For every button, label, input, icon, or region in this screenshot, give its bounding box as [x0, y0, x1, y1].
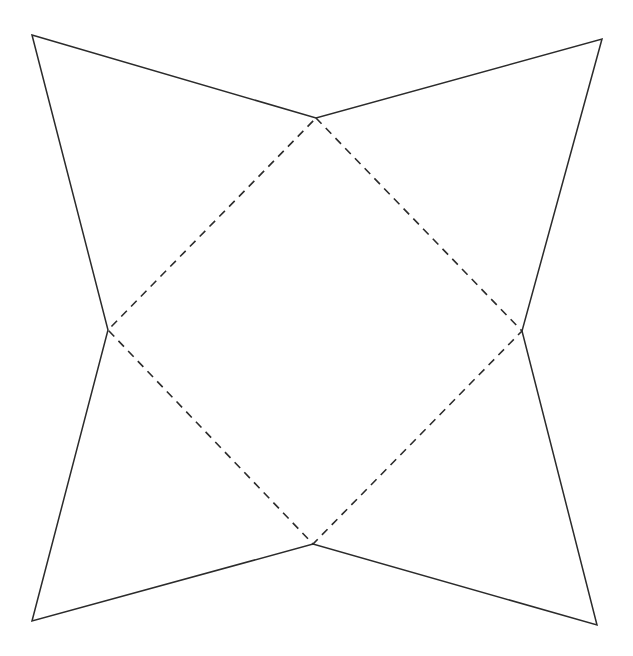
outer-vertex-markers [30, 33, 604, 627]
star-outline-path [32, 35, 602, 625]
star-outline-group [32, 35, 602, 625]
inner-rhombus-group [108, 118, 522, 544]
geometry-figure [0, 0, 633, 656]
inner-vertex-markers [106, 116, 524, 546]
inner-rhombus-path [108, 118, 522, 544]
figure-canvas [0, 0, 633, 656]
